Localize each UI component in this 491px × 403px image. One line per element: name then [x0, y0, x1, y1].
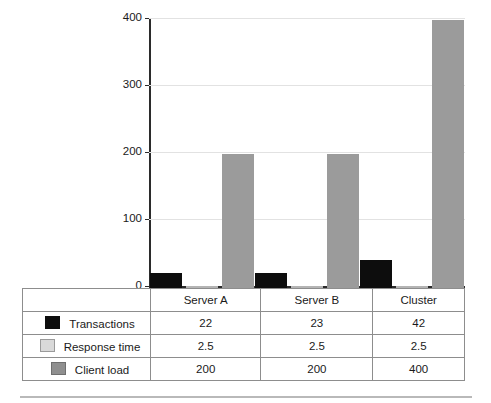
table-row: Response time 2.5 2.5 2.5: [23, 335, 465, 358]
cell-client-load-cluster: 400: [373, 358, 465, 381]
legend-item-response-time: Response time: [23, 335, 151, 358]
bar-transactions-server-a: [150, 273, 182, 288]
bar-group-server-b: [254, 18, 359, 288]
cell-client-load-server-b: 200: [261, 358, 373, 381]
legend-item-client-load: Client load: [23, 358, 151, 381]
bar-transactions-cluster: [360, 260, 392, 288]
bar-client-load-server-b: [327, 154, 359, 288]
legend-data-table: Server A Server B Cluster Transactions 2…: [22, 288, 465, 381]
bottom-divider-rule: [20, 396, 472, 398]
legend-corner-spacer: [23, 289, 151, 312]
cell-client-load-server-a: 200: [151, 358, 261, 381]
ytick-label-100: 100: [123, 213, 142, 225]
column-header-server-a: Server A: [151, 289, 261, 312]
cell-transactions-cluster: 42: [373, 312, 465, 335]
table-row: Client load 200 200 400: [23, 358, 465, 381]
legend-label-response-time: Response time: [64, 341, 141, 353]
cell-transactions-server-a: 22: [151, 312, 261, 335]
cell-response-time-server-a: 2.5: [151, 335, 261, 358]
table-header-row: Server A Server B Cluster: [23, 289, 465, 312]
gray-square-icon: [51, 362, 66, 375]
chart-figure: 400 300 200 100 0 Server A Server B Clus…: [0, 0, 491, 403]
legend-label-client-load: Client load: [75, 364, 129, 376]
column-header-cluster: Cluster: [373, 289, 465, 312]
ytick-label-200: 200: [123, 146, 142, 158]
light-gray-square-icon: [40, 339, 55, 352]
legend-item-transactions: Transactions: [23, 312, 151, 335]
plot-area: 400 300 200 100 0: [149, 18, 465, 288]
bar-client-load-server-a: [222, 154, 254, 288]
column-header-server-b: Server B: [261, 289, 373, 312]
table-row: Transactions 22 23 42: [23, 312, 465, 335]
legend-label-transactions: Transactions: [69, 318, 134, 330]
bars-layer: [149, 18, 465, 288]
bar-group-cluster: [360, 18, 465, 288]
bar-group-server-a: [149, 18, 254, 288]
black-square-icon: [45, 316, 60, 329]
cell-transactions-server-b: 23: [261, 312, 373, 335]
cell-response-time-server-b: 2.5: [261, 335, 373, 358]
ytick-label-400: 400: [123, 12, 142, 24]
cell-response-time-cluster: 2.5: [373, 335, 465, 358]
ytick-label-300: 300: [123, 79, 142, 91]
bar-client-load-cluster: [432, 20, 464, 288]
bar-transactions-server-b: [255, 273, 287, 288]
